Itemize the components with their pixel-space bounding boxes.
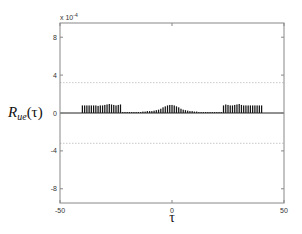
- bar: [104, 105, 105, 113]
- bar: [257, 105, 258, 113]
- x-tick-label: 50: [280, 207, 288, 214]
- bar: [160, 109, 161, 113]
- bar: [225, 104, 226, 113]
- bar: [97, 106, 98, 113]
- bar: [236, 104, 237, 113]
- bar: [254, 105, 255, 113]
- x-tick-label: -50: [55, 207, 65, 214]
- bar: [169, 105, 170, 113]
- y-axis-label: Rue(τ): [7, 104, 43, 122]
- bar: [245, 105, 246, 113]
- bar: [223, 105, 224, 113]
- bar: [243, 105, 244, 113]
- bar: [95, 105, 96, 113]
- bar: [115, 105, 116, 113]
- bar: [239, 104, 240, 113]
- x-axis-label: τ: [169, 210, 175, 225]
- bar: [261, 105, 262, 113]
- bar: [120, 104, 121, 113]
- bar: [118, 105, 119, 113]
- bar: [241, 105, 242, 113]
- y-tick-label: -4: [51, 147, 57, 154]
- bar: [82, 105, 83, 113]
- bar: [234, 105, 235, 113]
- bar: [86, 105, 87, 113]
- bar: [111, 104, 112, 113]
- y-tick-label: 0: [53, 110, 57, 117]
- correlation-chart: 840-4-8 -50050 x 10-4 Rue(τ) τ: [0, 0, 302, 234]
- y-tick-label: -8: [51, 185, 57, 192]
- bar: [259, 105, 260, 113]
- bar: [113, 105, 114, 113]
- y-tick-label: 4: [53, 72, 57, 79]
- bar: [162, 107, 163, 113]
- bar: [89, 105, 90, 113]
- bar: [252, 105, 253, 113]
- bar: [250, 105, 251, 113]
- bar: [248, 105, 249, 113]
- bar: [178, 107, 179, 113]
- bar-series: [82, 104, 262, 113]
- bar: [84, 105, 85, 113]
- bar: [230, 105, 231, 113]
- bar: [180, 109, 181, 113]
- bar: [165, 106, 166, 113]
- bar: [106, 104, 107, 113]
- bar: [91, 105, 92, 113]
- x-axis-ticks: -50050: [55, 23, 288, 214]
- bar: [93, 105, 94, 113]
- y-tick-label: 8: [53, 34, 57, 41]
- bar: [100, 105, 101, 113]
- bar: [232, 105, 233, 113]
- bar: [176, 106, 177, 113]
- bar: [174, 105, 175, 113]
- bar: [102, 105, 103, 113]
- bar: [109, 104, 110, 113]
- y-multiplier-label: x 10-4: [60, 12, 78, 21]
- bar: [171, 105, 172, 113]
- bar: [167, 105, 168, 113]
- bar: [227, 105, 228, 113]
